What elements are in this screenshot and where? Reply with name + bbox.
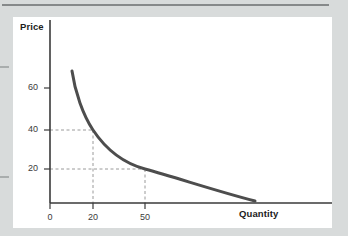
demand-curve-chart: Price Quantity 60 40 20 0 20 50 [13,17,332,228]
y-tick-label-40: 40 [16,124,38,134]
x-tick-label-0: 0 [39,212,61,222]
demand-curve-path [72,71,255,201]
left-edge-mark-lower [0,176,9,178]
y-axis-title: Price [20,21,44,32]
x-axis-title: Quantity [239,208,278,219]
x-tick-label-50: 50 [134,212,156,222]
y-tick-label-20: 20 [16,163,38,173]
top-divider-rule [2,4,329,6]
chart-canvas [13,17,332,228]
figure-card: Price Quantity 60 40 20 0 20 50 [13,17,332,228]
y-tick-label-60: 60 [16,82,38,92]
x-tick-label-20: 20 [82,212,104,222]
left-edge-mark-upper [0,66,9,68]
